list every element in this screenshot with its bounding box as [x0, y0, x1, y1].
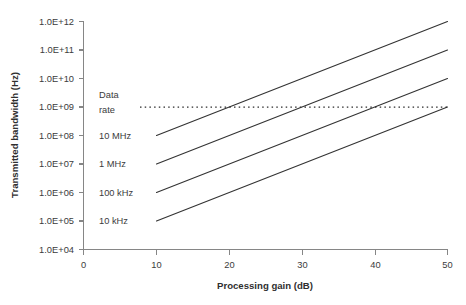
y-tick-label-1e8: 1.0E+08 — [39, 131, 74, 141]
label-data-rate-line1: Data — [99, 90, 119, 100]
y-tick-label-1e5: 1.0E+05 — [39, 216, 74, 226]
plot-area-background — [83, 21, 448, 250]
x-tick-label-20: 20 — [224, 260, 234, 270]
x-tick-label-30: 30 — [297, 260, 307, 270]
x-axis-title: Processing gain (dB) — [217, 280, 313, 291]
label-series-10mhz: 10 MHz — [99, 131, 131, 141]
y-tick-label-1e11: 1.0E+11 — [40, 45, 74, 55]
label-data-rate-line2: rate — [99, 105, 115, 115]
label-series-10khz: 10 kHz — [99, 216, 128, 226]
y-axis-ticks — [79, 22, 84, 250]
y-tick-label-1e12: 1.0E+12 — [39, 17, 74, 27]
chart-figure: 1.0E+04 1.0E+05 1.0E+06 1.0E+07 1.0E+08 … — [0, 0, 466, 305]
x-tick-label-0: 0 — [81, 260, 86, 270]
label-series-1mhz: 1 MHz — [99, 159, 126, 169]
x-tick-label-50: 50 — [442, 260, 452, 270]
y-tick-label-1e6: 1.0E+06 — [39, 188, 74, 198]
label-series-100khz: 100 kHz — [99, 188, 133, 198]
x-tick-label-10: 10 — [151, 260, 161, 270]
chart-canvas: 1.0E+04 1.0E+05 1.0E+06 1.0E+07 1.0E+08 … — [0, 0, 466, 305]
x-tick-label-40: 40 — [370, 260, 380, 270]
x-axis-ticks — [84, 250, 448, 255]
y-axis-title: Transmitted bandwidth (Hz) — [9, 72, 20, 198]
y-tick-label-1e9: 1.0E+09 — [39, 102, 74, 112]
y-tick-label-1e4: 1.0E+04 — [39, 245, 74, 255]
y-tick-label-1e7: 1.0E+07 — [39, 159, 74, 169]
y-tick-label-1e10: 1.0E+10 — [39, 74, 74, 84]
